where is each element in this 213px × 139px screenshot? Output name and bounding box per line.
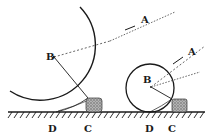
label-small-obstacle-c: C (168, 123, 176, 134)
small-wheel-obstacle-block (172, 99, 187, 112)
label-small-center-b: B (143, 74, 151, 85)
label-large-contact-d: D (48, 123, 57, 134)
small-wheel-pull-arrow (173, 57, 183, 64)
small-wheel-radius-to-c (151, 87, 172, 99)
label-large-obstacle-c: C (84, 123, 92, 134)
label-small-pull-a: A (187, 46, 196, 57)
small-wheel-pull-line (151, 46, 205, 87)
label-large-center-b: B (46, 51, 54, 62)
small-wheel-horizontal-line (151, 72, 200, 87)
small-wheel: B A D C (126, 46, 205, 134)
diagram-canvas: B A D C B A D C (0, 0, 213, 139)
large-wheel-radius-to-c (54, 57, 88, 98)
large-wheel-pull-arrow (125, 26, 135, 30)
large-wheel-obstacle-block (86, 98, 102, 112)
ground (8, 112, 205, 118)
label-small-contact-d: D (145, 123, 154, 134)
wheel-obstacle-diagram: B A D C B A D C (0, 0, 213, 139)
small-wheel-circle (126, 64, 174, 112)
label-large-pull-a: A (140, 14, 149, 25)
large-wheel-pull-line (54, 41, 110, 57)
large-wheel: B A D C (10, 7, 175, 134)
